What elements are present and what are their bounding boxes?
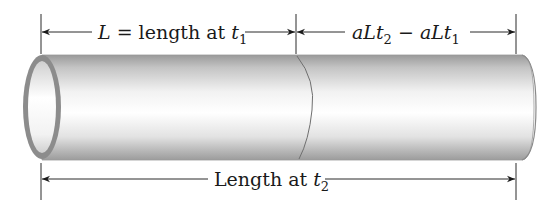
label-aLt-1: aLt <box>420 21 452 43</box>
label-expansion: aLt2 − aLt1 <box>352 21 460 47</box>
label-length-at-bottom: Length at <box>214 168 313 190</box>
label-sub-2: 2 <box>384 32 392 47</box>
label-t-sub: 1 <box>239 32 247 47</box>
label-length-at: = length at <box>111 21 232 43</box>
label-aLt-2: aLt <box>352 21 384 43</box>
pipe-expansion-diagram: L = length at t1 aLt2 − aLt1 Length at t… <box>0 0 554 207</box>
label-final-length: Length at t2 <box>214 168 329 194</box>
label-sub-1: 1 <box>451 32 459 47</box>
label-minus: − <box>392 21 420 43</box>
pipe <box>23 55 536 160</box>
label-original-length: L = length at t1 <box>97 21 247 47</box>
label-t-sub-bottom: 2 <box>321 179 329 194</box>
pipe-opening <box>28 61 56 153</box>
pipe-body <box>42 55 534 160</box>
label-L: L <box>97 21 111 43</box>
